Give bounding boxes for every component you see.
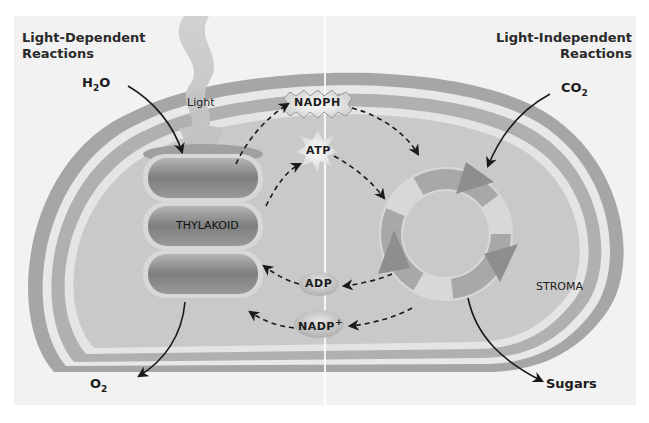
- label-oxygen: O2: [90, 376, 107, 394]
- label-nadph: NADPH: [294, 96, 341, 109]
- label-stroma: STROMA: [536, 280, 583, 293]
- header-light-dependent: Light-Dependent Reactions: [22, 30, 146, 62]
- label-co2: CO2: [561, 80, 588, 98]
- label-sugars: Sugars: [546, 376, 597, 391]
- label-light: Light: [187, 96, 214, 109]
- header-light-independent: Light-Independent Reactions: [496, 30, 632, 62]
- label-atp: ATP: [306, 144, 331, 157]
- label-adp: ADP: [305, 277, 332, 290]
- label-thylakoid: THYLAKOID: [176, 219, 239, 232]
- label-water: H2O: [82, 75, 110, 93]
- label-nadp-plus: NADP+: [298, 316, 343, 333]
- diagram-frame: Light-Dependent Reactions Light-Independ…: [14, 16, 636, 405]
